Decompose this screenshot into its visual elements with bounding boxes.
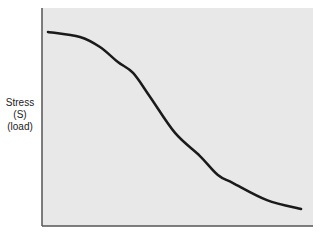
chart: [0, 0, 320, 233]
y-axis-label: Stress (S) (load): [0, 97, 40, 133]
plot-area: [42, 8, 313, 226]
y-axis-label-line-3: (load): [0, 121, 40, 133]
y-axis-label-line-2: (S): [0, 109, 40, 121]
y-axis-label-line-1: Stress: [0, 97, 40, 109]
